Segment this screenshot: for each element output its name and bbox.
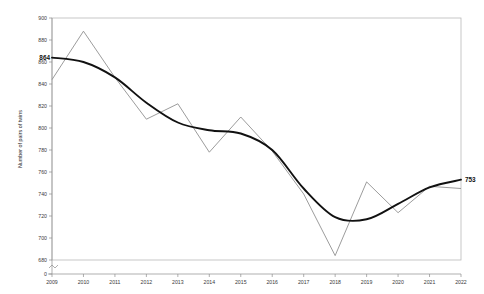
x-axis-tick-label: 2010 (78, 279, 90, 285)
y-axis-tick-label: 760 (38, 169, 47, 175)
y-axis-tick-label: 900 (38, 15, 47, 21)
y-axis-tick-label: 880 (38, 37, 47, 43)
x-axis-tick-label: 2012 (141, 279, 153, 285)
x-axis-tick-label: 2016 (266, 279, 278, 285)
y-axis-tick-label: 720 (38, 213, 47, 219)
x-axis-tick-label: 2022 (455, 279, 467, 285)
y-axis-tick-label: 780 (38, 147, 47, 153)
x-axis-tick-label: 2015 (235, 279, 247, 285)
observed-data-line (52, 31, 461, 255)
y-axis-tick-label: 740 (38, 191, 47, 197)
x-axis-tick-label: 2013 (172, 279, 184, 285)
y-axis-tick-label: 0 (44, 271, 47, 277)
y-axis-tick-label: 820 (38, 103, 47, 109)
axis-break-marker (49, 265, 58, 268)
y-axis-tick-label: 700 (38, 235, 47, 241)
end-value-label: 753 (465, 176, 476, 183)
x-axis-tick-label: 2021 (424, 279, 436, 285)
y-axis-tick-label: 840 (38, 81, 47, 87)
chart-canvas: 0680700720740760780800820840860880900200… (0, 0, 484, 294)
y-axis-tick-label: 800 (38, 125, 47, 131)
x-axis-tick-label: 2011 (109, 279, 120, 285)
trend-line (52, 58, 461, 221)
x-axis-tick-label: 2014 (204, 279, 216, 285)
x-axis-tick-label: 2009 (46, 279, 58, 285)
twins-trend-chart: 0680700720740760780800820840860880900200… (0, 0, 484, 294)
start-value-label: 864 (39, 54, 50, 61)
x-axis-tick-label: 2020 (392, 279, 404, 285)
x-axis-tick-label: 2018 (329, 279, 341, 285)
x-axis-tick-label: 2019 (361, 279, 373, 285)
x-axis-tick-label: 2017 (298, 279, 310, 285)
y-axis-tick-label: 680 (38, 257, 47, 263)
y-axis-title: Number of pairs of twins (17, 110, 23, 168)
